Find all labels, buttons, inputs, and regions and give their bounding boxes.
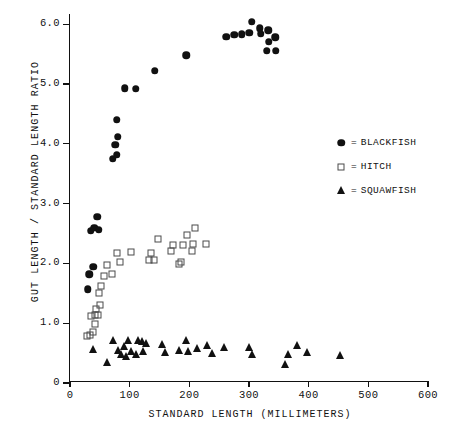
y-tick-label: 1.0 — [8, 316, 60, 328]
legend: =BLACKFISH=HITCH=SQUAWFISH — [336, 130, 454, 202]
open-square-marker — [338, 163, 345, 170]
y-tick-6.0 — [63, 24, 70, 25]
legend-swatch — [336, 184, 349, 197]
x-tick-0 — [69, 381, 70, 387]
y-tick-3.0 — [63, 203, 70, 204]
x-tick-label: 300 — [229, 389, 269, 401]
x-axis-title: STANDARD LENGTH (MILLIMETERS) — [70, 409, 430, 420]
data-point — [182, 336, 190, 344]
x-tick-200 — [189, 381, 190, 387]
data-point — [336, 351, 344, 359]
legend-equals-sign: = — [351, 137, 357, 148]
data-point — [248, 350, 256, 358]
y-tick-4.0 — [63, 143, 70, 144]
legend-equals-sign: = — [351, 161, 357, 172]
x-tick-label: 500 — [348, 389, 388, 401]
legend-swatch — [336, 136, 349, 149]
y-tick-label: 0 — [8, 376, 60, 388]
legend-equals-sign: = — [351, 185, 357, 196]
legend-item-hitch[interactable]: =HITCH — [336, 154, 454, 178]
data-point — [158, 340, 166, 348]
x-tick-label: 600 — [408, 389, 448, 401]
filled-circle-marker — [337, 139, 345, 147]
x-tick-300 — [248, 381, 249, 387]
y-axis-title: GUT LENGTH / STANDARD LENGTH RATIO — [30, 52, 41, 312]
scatter-plot-figure: 01.02.03.04.05.06.0 0100200300400500600 … — [0, 0, 455, 434]
legend-label: HITCH — [361, 161, 392, 172]
data-point — [161, 348, 169, 356]
data-point — [142, 339, 150, 347]
x-tick-label: 100 — [110, 389, 150, 401]
data-point — [124, 336, 132, 344]
data-point — [220, 343, 228, 351]
y-tick-1.0 — [63, 323, 70, 324]
data-point — [303, 348, 311, 356]
legend-label: SQUAWFISH — [361, 185, 417, 196]
filled-triangle-marker — [337, 186, 345, 194]
x-tick-label: 400 — [289, 389, 329, 401]
x-tick-600 — [427, 381, 428, 387]
data-point — [193, 344, 201, 352]
data-point — [281, 360, 289, 368]
x-tick-label: 200 — [169, 389, 209, 401]
x-tick-500 — [368, 381, 369, 387]
x-tick-label: 0 — [50, 389, 90, 401]
data-point — [284, 350, 292, 358]
y-tick-label: 6.0 — [8, 17, 60, 29]
legend-item-blackfish[interactable]: =BLACKFISH — [336, 130, 454, 154]
y-tick-2.0 — [63, 263, 70, 264]
x-tick-400 — [308, 381, 309, 387]
y-tick-5.0 — [63, 83, 70, 84]
data-point — [139, 347, 147, 355]
data-point — [293, 341, 301, 349]
data-point — [184, 347, 192, 355]
data-point — [109, 336, 117, 344]
data-point — [208, 349, 216, 357]
x-tick-100 — [129, 381, 130, 387]
legend-swatch — [336, 160, 349, 173]
data-point — [103, 358, 111, 366]
legend-label: BLACKFISH — [361, 137, 417, 148]
data-point — [175, 346, 183, 354]
data-point — [89, 345, 97, 353]
data-point — [203, 341, 211, 349]
legend-item-squawfish[interactable]: =SQUAWFISH — [336, 178, 454, 202]
